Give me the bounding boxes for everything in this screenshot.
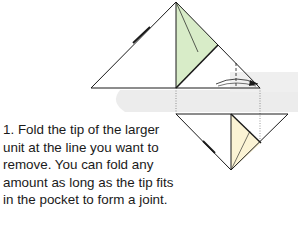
instruction-line-3: remove. You can fold any	[3, 157, 153, 172]
instruction-line-4: amount as long as the tip fits	[3, 175, 173, 190]
instruction-line-1: 1. Fold the tip of the larger	[3, 122, 159, 137]
instruction-line-2: unit at the line you want to	[3, 140, 159, 155]
gray-background-band	[116, 72, 298, 112]
instruction-line-5: in the pocket to form a joint.	[3, 192, 168, 207]
step-instruction: 1. Fold the tip of the larger unit at th…	[3, 121, 203, 209]
